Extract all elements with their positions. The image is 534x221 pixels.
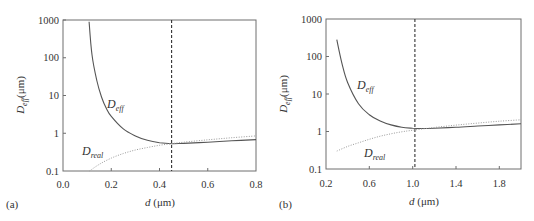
plot-frame-b bbox=[326, 19, 521, 169]
x-tick-label: 0.6 bbox=[201, 179, 214, 190]
x-tick-label: 1.4 bbox=[449, 178, 463, 189]
y-axis-title-a: Deff(μm) bbox=[14, 76, 29, 115]
x-tick-label: 0.2 bbox=[105, 179, 118, 190]
x-axis-title-b: d (μm) bbox=[409, 195, 439, 208]
y-tick-label: 1 bbox=[54, 128, 59, 139]
panel-b: 1000 100 10 1 0.1 0.2 0.6 1.0 1.4 1.8 De… bbox=[277, 14, 521, 212]
plot-frame-a bbox=[63, 20, 256, 171]
curve-label-d-real-b: Dreal bbox=[363, 146, 386, 162]
y-tick-label: 1000 bbox=[38, 15, 59, 26]
y-tick-label: 0.1 bbox=[309, 164, 322, 175]
panel-a: 1000 100 10 1 0.1 0.0 0.2 0.4 0.6 0.8 De… bbox=[6, 15, 263, 212]
curve-d-eff-a bbox=[89, 22, 256, 144]
x-axis-title-a: d (μm) bbox=[145, 196, 175, 209]
y-tick-label: 10 bbox=[312, 89, 323, 100]
y-tick-label: 1 bbox=[317, 126, 322, 137]
curve-label-d-eff-b: Deff bbox=[356, 78, 375, 94]
y-tick-label: 100 bbox=[306, 51, 322, 62]
x-tick-label: 0.4 bbox=[153, 179, 167, 190]
x-tick-label: 0.2 bbox=[319, 178, 332, 189]
y-axis-title-b: Deff(μm) bbox=[277, 75, 292, 114]
x-tick-label: 0.8 bbox=[249, 179, 262, 190]
y-tick-label: 0.1 bbox=[46, 166, 59, 177]
panel-label-b: (b) bbox=[279, 198, 292, 211]
y-tick-label: 100 bbox=[43, 52, 59, 63]
curve-label-d-eff-a: Deff bbox=[106, 97, 125, 113]
x-tick-label: 0.6 bbox=[363, 178, 376, 189]
figure: 1000 100 10 1 0.1 0.0 0.2 0.4 0.6 0.8 De… bbox=[0, 0, 534, 221]
x-tick-label: 0.0 bbox=[56, 179, 69, 190]
y-tick-label: 10 bbox=[49, 90, 60, 101]
x-tick-label: 1.0 bbox=[406, 178, 419, 189]
panel-label-a: (a) bbox=[6, 198, 19, 211]
x-tick-label: 1.8 bbox=[493, 178, 506, 189]
y-tick-label: 1000 bbox=[301, 14, 322, 25]
curve-label-d-real-a: Dreal bbox=[81, 144, 104, 160]
